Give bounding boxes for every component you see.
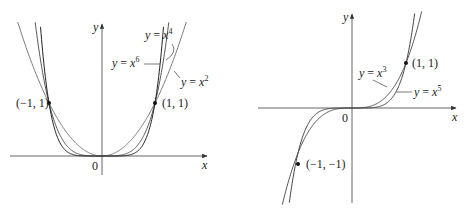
point-label-1-1: (1, 1) <box>162 96 188 110</box>
point-1-1 <box>404 61 408 65</box>
label-x6: y = x6 <box>111 55 139 70</box>
point-neg1-neg1 <box>296 162 300 166</box>
leader-x3 <box>373 80 387 87</box>
x-axis-label: x <box>201 158 208 172</box>
y-axis-label: y <box>342 10 349 24</box>
leader-x2 <box>174 71 180 78</box>
power-functions-figure: (−1, 1) (1, 1) 0 x y y = x4 y = x6 y = x… <box>0 0 469 213</box>
x-axis-label: x <box>451 110 458 124</box>
point-label-1-1: (1, 1) <box>412 56 438 70</box>
point-1-1 <box>153 101 157 105</box>
even-powers-chart: (−1, 1) (1, 1) 0 x y y = x4 y = x6 y = x… <box>10 20 208 175</box>
y-axis-label: y <box>92 20 99 34</box>
origin-label: 0 <box>342 111 348 125</box>
leader-x4 <box>166 44 174 60</box>
label-x2: y = x2 <box>180 74 208 89</box>
odd-powers-chart: (1, 1) (−1, −1) 0 x y y = x3 y = x5 <box>258 10 458 205</box>
point-label-neg1-1: (−1, 1) <box>16 96 49 110</box>
label-x4: y = x4 <box>144 27 172 42</box>
label-x3: y = x3 <box>358 65 386 80</box>
origin-label: 0 <box>92 159 98 173</box>
label-x5: y = x5 <box>413 84 441 99</box>
point-label-neg1-neg1: (−1, −1) <box>306 157 346 171</box>
